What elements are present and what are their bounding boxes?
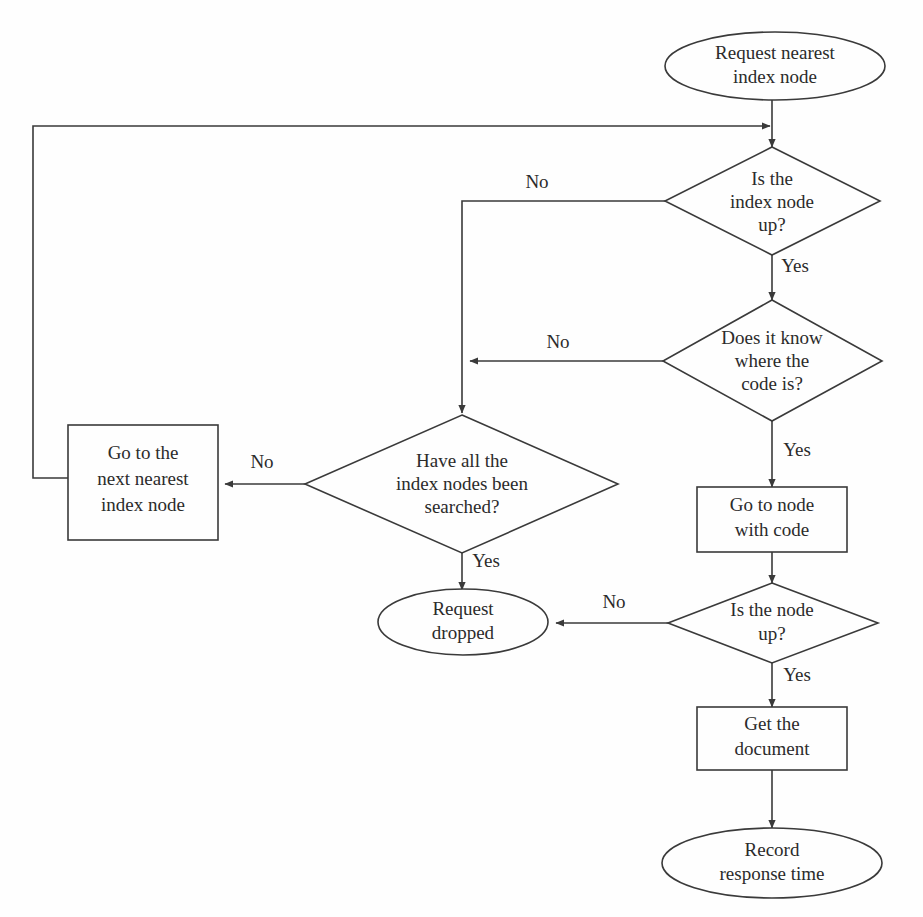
decision-index-node-up-line1: Is the xyxy=(751,168,793,189)
node-record-response-time[interactable]: Record response time xyxy=(662,828,882,898)
node-does-it-know-where-code-is[interactable]: Does it know where the code is? xyxy=(663,300,882,421)
edge-label-knows-code-no: No xyxy=(546,331,569,352)
process-next-nearest-line1: Go to the xyxy=(108,442,179,463)
flowchart-canvas: No Yes No Yes No Yes No Yes Request near… xyxy=(0,0,923,917)
terminal-request-dropped-line2: dropped xyxy=(432,622,495,643)
node-request-dropped[interactable]: Request dropped xyxy=(378,589,548,655)
node-is-index-node-up[interactable]: Is the index node up? xyxy=(665,147,880,255)
node-go-to-node-with-code[interactable]: Go to node with code xyxy=(697,487,847,552)
process-get-document-line2: document xyxy=(735,738,811,759)
edge-label-knows-code-yes: Yes xyxy=(783,439,811,460)
node-have-all-index-nodes-been-searched[interactable]: Have all the index nodes been searched? xyxy=(305,415,618,553)
process-go-to-node-line1: Go to node xyxy=(730,494,814,515)
process-next-nearest-line2: next nearest xyxy=(97,468,189,489)
process-go-to-node-line2: with code xyxy=(735,519,809,540)
decision-all-searched-line1: Have all the xyxy=(416,450,508,471)
edge-label-all-searched-yes: Yes xyxy=(472,550,500,571)
edge-label-all-searched-no: No xyxy=(250,451,273,472)
decision-node-up-line2: up? xyxy=(758,623,785,644)
decision-all-searched-line3: searched? xyxy=(425,496,500,517)
start-label-line2: index node xyxy=(733,66,817,87)
node-request-nearest-index-node[interactable]: Request nearest index node xyxy=(665,32,885,100)
terminal-record-response-line2: response time xyxy=(719,863,824,884)
process-get-document-line1: Get the xyxy=(744,713,799,734)
flowchart-svg: No Yes No Yes No Yes No Yes Request near… xyxy=(0,0,923,917)
terminal-request-dropped-line1: Request xyxy=(432,598,494,619)
node-go-to-next-nearest-index-node[interactable]: Go to the next nearest index node xyxy=(68,425,218,540)
start-label-line1: Request nearest xyxy=(715,42,835,63)
decision-knows-code-line3: code is? xyxy=(741,373,803,394)
process-next-nearest-line3: index node xyxy=(101,494,185,515)
edge-label-index-node-up-yes: Yes xyxy=(781,255,809,276)
edge-label-node-up-no: No xyxy=(602,591,625,612)
edge-label-index-node-up-no: No xyxy=(525,171,548,192)
decision-knows-code-line1: Does it know xyxy=(721,327,823,348)
decision-all-searched-line2: index nodes been xyxy=(396,473,528,494)
decision-node-up-line1: Is the node xyxy=(730,599,813,620)
node-get-the-document[interactable]: Get the document xyxy=(697,707,847,770)
edge-index-node-up-no xyxy=(462,201,665,413)
node-is-the-node-up[interactable]: Is the node up? xyxy=(668,583,878,663)
decision-index-node-up-line3: up? xyxy=(758,214,785,235)
edge-label-node-up-yes: Yes xyxy=(783,664,811,685)
terminal-record-response-line1: Record xyxy=(745,839,800,860)
decision-knows-code-line2: where the xyxy=(735,350,809,371)
decision-index-node-up-line2: index node xyxy=(730,191,814,212)
